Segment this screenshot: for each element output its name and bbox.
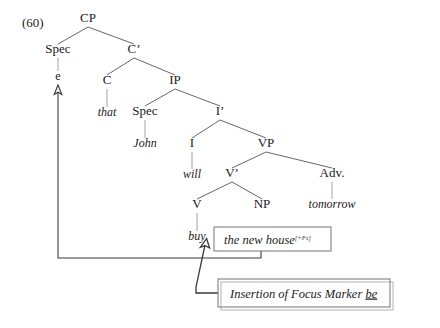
terminal-buy: buy bbox=[188, 229, 206, 243]
node-vp: VP bbox=[258, 135, 275, 150]
node-ibar: I’ bbox=[216, 103, 225, 118]
branch-ip-to-ibar bbox=[175, 89, 220, 106]
node-ip: IP bbox=[169, 72, 181, 87]
example-number: (60) bbox=[22, 15, 44, 30]
rule-arrow-path bbox=[196, 245, 218, 293]
np-focus-box[interactable]: the new house[+Fs] bbox=[214, 227, 331, 251]
node-spec2: Spec bbox=[132, 103, 158, 118]
terminal-e: e bbox=[55, 69, 60, 83]
focus-marker-insertion-arrow bbox=[196, 239, 218, 294]
node-cbar: C’ bbox=[128, 41, 141, 56]
node-i: I bbox=[190, 135, 194, 150]
node-v: V bbox=[192, 196, 202, 211]
node-vbar: V’ bbox=[225, 165, 239, 180]
terminal-tomorrow: tomorrow bbox=[309, 197, 356, 211]
terminal-will: will bbox=[183, 167, 202, 181]
branch-ibar-to-i bbox=[192, 120, 220, 138]
focus-marker-rule-box[interactable]: Insertion of Focus Marker be bbox=[218, 279, 393, 310]
branch-vbar-to-v bbox=[197, 182, 232, 199]
node-cp: CP bbox=[80, 10, 96, 25]
terminal-labels: ethatJohnwilltomorrowbuy bbox=[55, 69, 355, 243]
node-c: C bbox=[103, 72, 112, 87]
terminal-that: that bbox=[98, 105, 117, 119]
node-np: NP bbox=[254, 196, 271, 211]
tree-diagram-canvas: CPSpecC’CIPSpecI’IVPV’Adv.VNP ethatJohnw… bbox=[0, 0, 440, 328]
node-adv: Adv. bbox=[320, 165, 345, 180]
focus-marker-rule-text: Insertion of Focus Marker be bbox=[229, 287, 378, 301]
terminal-john: John bbox=[133, 136, 156, 150]
syntax-tree-figure: CPSpecC’CIPSpecI’IVPV’Adv.VNP ethatJohnw… bbox=[0, 0, 440, 328]
np-focus-box-text: the new house[+Fs] bbox=[224, 233, 311, 247]
node-spec1: Spec bbox=[45, 41, 71, 56]
